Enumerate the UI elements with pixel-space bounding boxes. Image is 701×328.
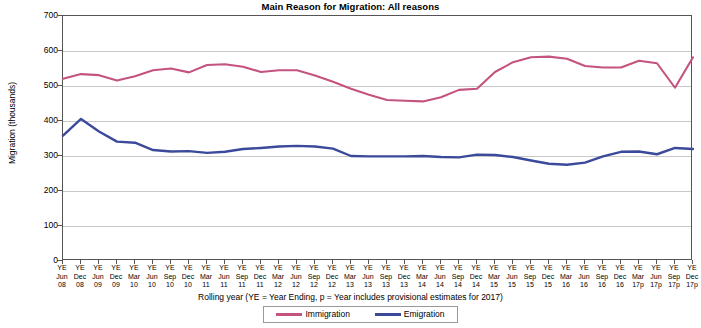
- y-axis-tick-label: 500: [24, 81, 58, 90]
- legend-item-emigration[interactable]: Emigration: [375, 310, 445, 319]
- y-axis-tick-label: 600: [24, 46, 58, 55]
- y-axis-tick-label: 200: [24, 186, 58, 195]
- series-line-emigration: [63, 119, 693, 165]
- chart-title: Main Reason for Migration: All reasons: [0, 1, 701, 13]
- series-layer: [63, 16, 693, 261]
- chart-legend: Immigration Emigration: [263, 306, 458, 323]
- legend-label-immigration: Immigration: [305, 310, 349, 319]
- y-axis-tick-label: 700: [24, 11, 58, 20]
- x-axis-tick-label: YEDec17p: [677, 264, 701, 290]
- x-axis-tick-label-part: Dec: [677, 273, 701, 282]
- legend-label-emigration: Emigration: [404, 310, 445, 319]
- x-axis-caption: Rolling year (YE = Year Ending, p = Year…: [0, 292, 701, 302]
- legend-swatch-immigration: [276, 313, 302, 316]
- legend-swatch-emigration: [375, 313, 401, 316]
- x-axis-tick-label-part: 17p: [677, 281, 701, 290]
- x-axis-tick-label-part: YE: [677, 264, 701, 273]
- y-axis-tick-label: 400: [24, 116, 58, 125]
- plot-area: [62, 15, 692, 260]
- legend-item-immigration[interactable]: Immigration: [276, 310, 349, 319]
- y-axis-title: Migration (thousands): [7, 48, 17, 198]
- series-line-immigration: [63, 57, 693, 102]
- y-axis-tick-label: 100: [24, 221, 58, 230]
- migration-line-chart: Main Reason for Migration: All reasons M…: [0, 0, 701, 328]
- y-axis-tick-label: 300: [24, 151, 58, 160]
